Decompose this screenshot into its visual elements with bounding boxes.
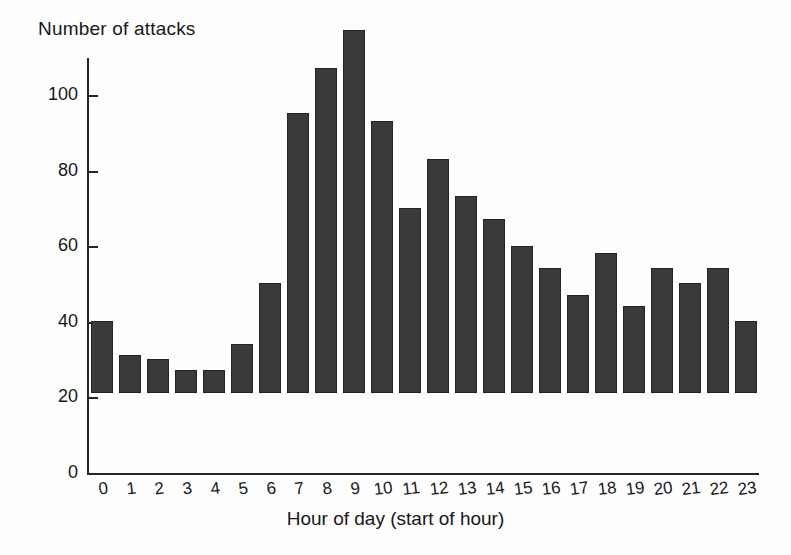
- bar: [315, 68, 336, 393]
- x-tick-label: 14: [480, 477, 510, 500]
- bar: [399, 208, 420, 393]
- x-tick-label: 18: [592, 477, 622, 500]
- x-tick-label: 15: [508, 477, 538, 500]
- bar: [343, 30, 364, 393]
- x-tick-label: 11: [396, 477, 426, 500]
- y-tick-label: 60: [18, 235, 78, 256]
- x-tick-label: 2: [144, 477, 174, 500]
- x-tick-label: 6: [256, 477, 286, 500]
- x-tick-label: 22: [704, 477, 734, 500]
- bar: [203, 370, 224, 393]
- bar: [455, 196, 476, 393]
- y-tick-label: 100: [18, 84, 78, 105]
- x-tick-label: 9: [340, 477, 370, 500]
- bar: [539, 268, 560, 393]
- x-tick-label: 10: [368, 477, 398, 500]
- y-tick-label: 20: [18, 386, 78, 407]
- bar: [483, 219, 504, 393]
- x-tick-label: 8: [312, 477, 342, 500]
- bar: [595, 253, 616, 393]
- bar: [427, 159, 448, 393]
- x-tick-label: 5: [228, 477, 258, 500]
- x-tick-label: 23: [732, 477, 762, 500]
- x-tick-label: 1: [116, 477, 146, 500]
- x-tick-label: 0: [88, 477, 118, 500]
- bar: [91, 321, 112, 393]
- bar: [623, 306, 644, 393]
- x-tick-label: 20: [648, 477, 678, 500]
- bar-chart-figure: Number of attacks 020406080100 012345678…: [0, 0, 791, 555]
- bar: [259, 283, 280, 393]
- x-axis-title: Hour of day (start of hour): [0, 508, 791, 530]
- x-tick-label: 12: [424, 477, 454, 500]
- bar: [735, 321, 756, 393]
- bars-layer: [88, 0, 760, 475]
- x-tick-label: 7: [284, 477, 314, 500]
- bar: [567, 295, 588, 393]
- bar: [147, 359, 168, 393]
- y-tick-label: 40: [18, 311, 78, 332]
- bar: [119, 355, 140, 393]
- bar: [651, 268, 672, 393]
- bar: [231, 344, 252, 393]
- y-tick-label: 80: [18, 160, 78, 181]
- bar: [371, 121, 392, 393]
- bar: [707, 268, 728, 393]
- bar: [679, 283, 700, 393]
- y-tick-label: 0: [18, 462, 78, 483]
- x-tick-label: 21: [676, 477, 706, 500]
- bar: [511, 246, 532, 393]
- x-tick-label: 13: [452, 477, 482, 500]
- x-tick-label: 16: [536, 477, 566, 500]
- x-tick-label: 19: [620, 477, 650, 500]
- x-tick-label: 3: [172, 477, 202, 500]
- x-tick-label: 4: [200, 477, 230, 500]
- x-tick-label: 17: [564, 477, 594, 500]
- bar: [175, 370, 196, 393]
- bar: [287, 113, 308, 393]
